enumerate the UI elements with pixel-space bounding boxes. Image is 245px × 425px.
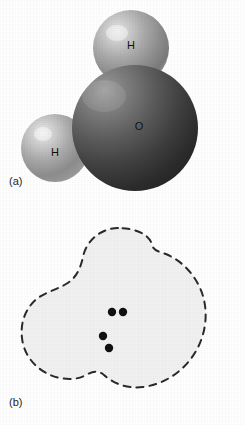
electron-dot	[108, 308, 116, 316]
electron-dot	[99, 332, 107, 340]
electron-dot	[119, 308, 127, 316]
panel-b-electron-cloud-diagram: H H O δ+ δ−	[0, 212, 245, 425]
water-molecule-figure: H H O H H O δ+ δ− (a) (b)	[0, 0, 245, 425]
panel-caption-a: (a)	[9, 175, 22, 187]
panel-caption-b: (b)	[9, 396, 22, 408]
electron-dot	[105, 344, 113, 352]
oxygen-highlight	[82, 80, 126, 112]
hydrogen-left-highlight	[34, 127, 52, 141]
atom-label-hydrogen-left: H	[51, 146, 59, 158]
panel-a-graphic	[0, 0, 245, 212]
electron-cloud-outline	[22, 228, 206, 387]
panel-a-space-filling-model: H H O	[0, 0, 245, 212]
atom-label-oxygen: O	[135, 120, 144, 132]
hydrogen-top-highlight	[106, 25, 128, 41]
panel-b-graphic	[0, 212, 245, 425]
atom-label-hydrogen-top: H	[127, 39, 135, 51]
